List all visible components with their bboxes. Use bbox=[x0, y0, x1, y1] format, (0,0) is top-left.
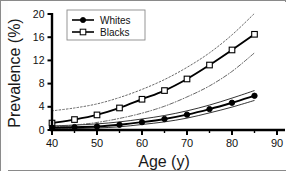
data-point-blacks bbox=[207, 62, 213, 68]
x-tick-label: 90 bbox=[271, 137, 283, 149]
x-tick-label: 50 bbox=[91, 137, 103, 149]
data-point-whites bbox=[207, 106, 212, 111]
legend-label-blacks: Blacks bbox=[100, 27, 129, 38]
y-tick-label: 16 bbox=[33, 31, 45, 43]
x-axis-label: Age (y) bbox=[138, 153, 190, 170]
data-point-whites bbox=[139, 119, 144, 124]
x-tick-label: 70 bbox=[181, 137, 193, 149]
legend-label-whites: Whites bbox=[100, 15, 131, 26]
open-square-icon bbox=[80, 29, 86, 35]
data-point-blacks bbox=[94, 112, 100, 118]
data-point-blacks bbox=[184, 76, 190, 82]
x-tick-label: 80 bbox=[226, 137, 238, 149]
x-tick-label: 40 bbox=[46, 137, 58, 149]
data-point-whites bbox=[162, 116, 167, 121]
data-point-whites bbox=[117, 122, 122, 127]
data-point-blacks bbox=[162, 88, 168, 94]
data-point-whites bbox=[252, 93, 257, 98]
y-tick-label: 8 bbox=[39, 77, 45, 89]
data-point-blacks bbox=[117, 105, 123, 111]
y-tick-label: 20 bbox=[33, 8, 45, 20]
y-axis-label: Prevalence (%) bbox=[6, 18, 23, 127]
y-tick-label: 4 bbox=[39, 100, 45, 112]
data-point-blacks bbox=[252, 32, 258, 38]
y-tick-label: 12 bbox=[33, 54, 45, 66]
data-point-blacks bbox=[72, 117, 78, 123]
data-point-whites bbox=[184, 112, 189, 117]
data-point-blacks bbox=[229, 47, 235, 53]
prevalence-by-age-chart: 048121620 405060708090 Age (y) Prevalenc… bbox=[1, 1, 286, 171]
legend: Whites Blacks bbox=[67, 10, 145, 40]
x-tick-label: 60 bbox=[136, 137, 148, 149]
y-tick-label: 0 bbox=[39, 124, 45, 136]
data-point-whites bbox=[94, 124, 99, 129]
figure-frame: 048121620 405060708090 Age (y) Prevalenc… bbox=[0, 0, 286, 171]
data-point-blacks bbox=[139, 96, 145, 102]
data-point-whites bbox=[229, 100, 234, 105]
filled-circle-icon bbox=[80, 17, 85, 22]
